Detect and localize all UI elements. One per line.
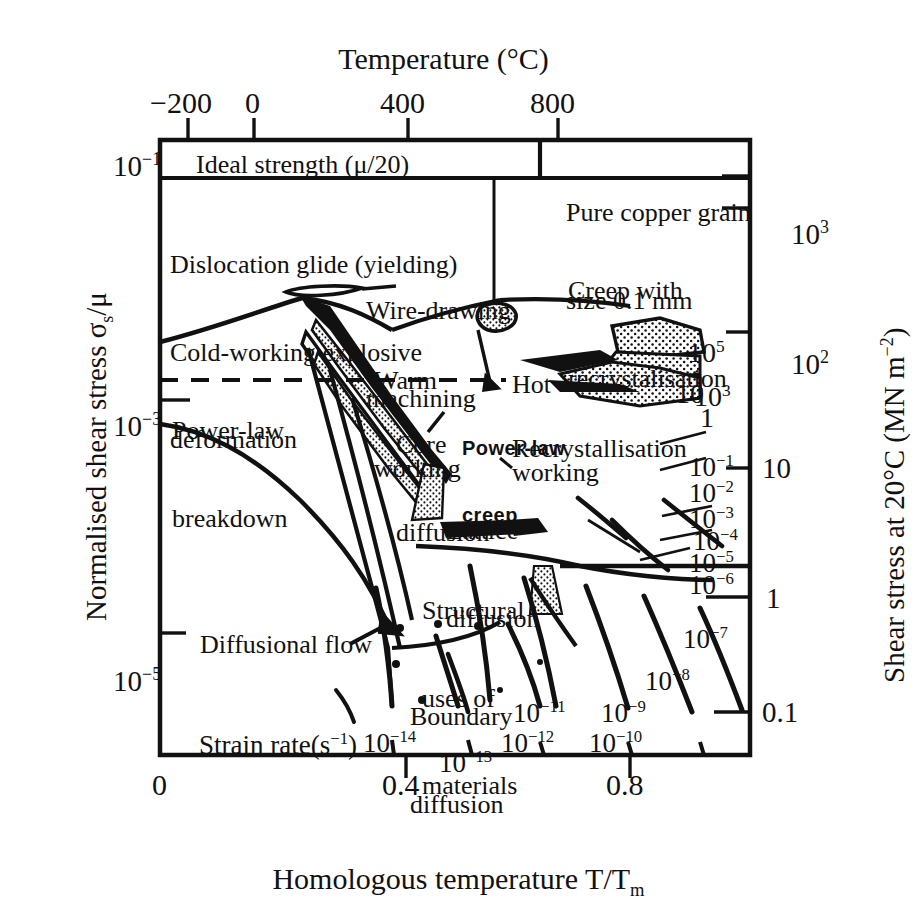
contour-1e-12-mantissa: 10 bbox=[501, 728, 528, 758]
left-tick-1-mantissa: 10 bbox=[113, 150, 142, 182]
top-axis-title: Temperature (°C) bbox=[0, 42, 887, 76]
contour-label-1e-13: 10−13 bbox=[412, 718, 492, 809]
bottom-axis-title-sub: m bbox=[630, 879, 644, 900]
strain-rate-legend-main: Strain rate(s bbox=[199, 730, 330, 760]
field-label-diffusional-flow: Diffusional flow bbox=[200, 630, 372, 659]
top-tick-label-2: 0 bbox=[245, 86, 260, 120]
left-tick-3-exponent: −5 bbox=[142, 665, 161, 685]
field-label-power-law-breakdown: Power-law breakdown bbox=[172, 358, 288, 591]
top-tick-label-4: 800 bbox=[530, 86, 575, 120]
left-tick-3-mantissa: 10 bbox=[113, 665, 142, 697]
field-label-ideal-strength: Ideal strength (μ/20) bbox=[196, 150, 409, 179]
contour-1e-14-mantissa: 10 bbox=[363, 728, 390, 758]
left-axis-title-sub: s bbox=[97, 316, 117, 323]
contour-1e-10-exponent: −10 bbox=[616, 727, 642, 746]
contour-1e3-exponent: 3 bbox=[722, 381, 731, 400]
right-axis-title-main: Shear stress at 20°C (MN m bbox=[878, 356, 910, 683]
contour-1e-13-mantissa: 10 bbox=[439, 748, 466, 778]
right-tick-2-exponent: 2 bbox=[820, 348, 829, 368]
creep-recryst-line-1: Creep with bbox=[568, 276, 727, 305]
left-axis-title: Normalised shear stress σs/μ bbox=[48, 292, 145, 650]
left-axis-title-tail: /μ bbox=[80, 292, 112, 316]
top-axis-ticks bbox=[188, 118, 558, 140]
contour-1e-13-exponent: −13 bbox=[466, 747, 492, 766]
bottom-tick-label-1: 0 bbox=[152, 768, 167, 802]
right-axis-title-sup: −2 bbox=[878, 337, 898, 356]
contour-label-1e-10: 10−10 bbox=[562, 698, 642, 789]
contour-1e-6-exponent: −6 bbox=[716, 569, 734, 588]
right-tick-1-mantissa: 10 bbox=[791, 218, 820, 250]
top-tick-label-1: −200 bbox=[150, 86, 212, 120]
left-axis-title-main: Normalised shear stress σ bbox=[80, 323, 112, 621]
contour-1e-10-mantissa: 10 bbox=[589, 728, 616, 758]
left-tick-1-exponent: −1 bbox=[142, 150, 161, 170]
right-tick-2: 102 bbox=[762, 316, 829, 413]
power-law-breakdown-line-1: Power-law bbox=[172, 416, 288, 445]
power-law-breakdown-line-2: breakdown bbox=[172, 504, 288, 533]
contour-1e-14-exponent: −14 bbox=[390, 727, 416, 746]
contour-1e-7-exponent: −7 bbox=[710, 623, 728, 642]
right-tick-2-mantissa: 10 bbox=[791, 348, 820, 380]
right-tick-4: 1 bbox=[766, 582, 781, 614]
right-axis-title: Shear stress at 20°C (MN m−2) bbox=[846, 328, 915, 712]
contour-1e-8-mantissa: 10 bbox=[645, 666, 672, 696]
structural-uses-line-1: Structural bbox=[422, 596, 525, 625]
right-tick-1: 103 bbox=[762, 186, 829, 283]
right-axis-title-tail: ) bbox=[878, 328, 910, 338]
strain-rate-legend: Strain rate(s−1) bbox=[172, 700, 357, 791]
right-tick-3: 10 bbox=[762, 452, 791, 484]
left-tick-1: 10−1 bbox=[84, 118, 161, 215]
right-tick-5: 0.1 bbox=[762, 696, 798, 728]
contour-1e-12-exponent: −12 bbox=[528, 727, 554, 746]
right-tick-1-exponent: 3 bbox=[820, 218, 829, 238]
contour-1e-8-exponent: −8 bbox=[672, 665, 690, 684]
contour-label-1e-14: 10−14 bbox=[336, 698, 416, 789]
top-tick-label-3: 400 bbox=[380, 86, 425, 120]
